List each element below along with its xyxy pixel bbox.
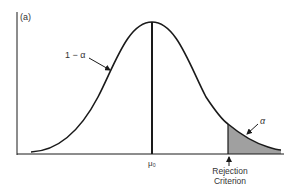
alpha-label: α bbox=[260, 116, 266, 126]
curve-label-arrow bbox=[89, 58, 110, 70]
distribution-curve bbox=[31, 22, 281, 152]
normal-distribution-diagram: (a) 1 − α α μ₀ Rejection Criterion bbox=[0, 0, 298, 193]
criterion-label-line2: Criterion bbox=[214, 176, 246, 186]
mean-label: μ₀ bbox=[148, 159, 156, 168]
curve-label: 1 − α bbox=[65, 50, 85, 60]
alpha-arrow bbox=[247, 124, 258, 134]
rejection-region-shading bbox=[228, 124, 281, 154]
panel-label: (a) bbox=[20, 12, 31, 22]
criterion-label-line1: Rejection bbox=[212, 166, 248, 176]
